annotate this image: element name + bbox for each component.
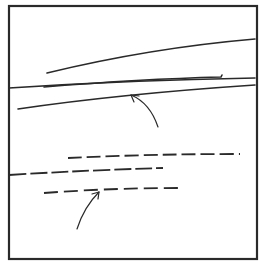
dashed-lines-group [9,154,240,193]
middle-dashed-line [9,168,163,175]
lower-dashed-line [44,188,178,193]
upper-dashed-line [68,154,240,158]
arrows-group [77,95,158,229]
frame-crossing-line [9,78,255,88]
frame-border [9,6,257,259]
upper-arrow [131,95,158,127]
lower-arrow [77,192,99,229]
lower-solid-line [18,85,255,109]
diagram-canvas [0,0,262,268]
line-diagram [0,0,262,268]
upper-long-line [47,39,255,73]
